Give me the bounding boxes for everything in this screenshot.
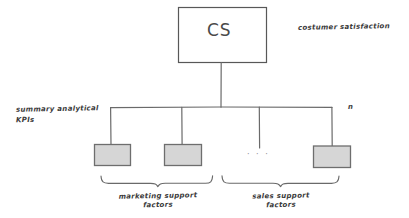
branch-count-label: n xyxy=(348,103,353,111)
child-node-box-n[interactable] xyxy=(314,146,351,168)
level-label-line2: KPIs xyxy=(16,115,35,125)
child-node-box-2[interactable] xyxy=(165,145,202,166)
level-label-line1: summary analytical xyxy=(16,103,99,115)
group-brace-marketing xyxy=(101,176,213,187)
child-node-box-1[interactable] xyxy=(95,145,131,166)
group-brace-sales xyxy=(222,176,339,187)
ellipsis-indicator: · · · xyxy=(247,150,270,159)
root-node-annotation: costumer satisfaction xyxy=(298,21,390,33)
diagram-canvas: CS costumer satisfaction summary analyti… xyxy=(0,0,409,218)
group-label-marketing-line2: factors xyxy=(107,199,209,211)
bus-connector xyxy=(111,107,333,108)
group-label-sales-line2: factors xyxy=(231,199,331,211)
root-node-label: CS xyxy=(207,20,232,40)
